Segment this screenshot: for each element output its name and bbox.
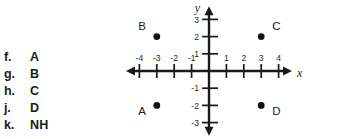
y-tick-label: 3 (194, 15, 199, 25)
x-axis-arrow-right-icon (283, 67, 292, 76)
choice-key: k. (4, 118, 30, 132)
answer-choice-list: f. A g. B h. C j. D k. NH (4, 50, 96, 135)
x-tick-label: 2 (241, 53, 246, 63)
point-label-c: C (272, 20, 280, 32)
coordinate-plane: -4-3-2-11234321-1-2-3 BCAD xy (96, 0, 337, 139)
y-tick-label: 2 (194, 32, 199, 42)
y-tick-label: 1 (194, 49, 199, 59)
axes-group (126, 6, 292, 136)
point-label-a: A (138, 105, 146, 117)
y-tick-label: -1 (191, 83, 199, 93)
x-tick-label: 4 (276, 53, 281, 63)
choice-key: h. (4, 84, 30, 98)
plotted-point-b[interactable] (153, 33, 160, 40)
list-item[interactable]: h. C (4, 84, 96, 101)
choice-label: A (30, 50, 39, 64)
x-tick-label: -4 (136, 53, 144, 63)
choice-label: B (30, 67, 39, 81)
plotted-point-a[interactable] (153, 102, 160, 109)
list-item[interactable]: j. D (4, 101, 96, 118)
choice-label: C (30, 84, 39, 98)
choice-key: f. (4, 50, 30, 64)
list-item[interactable]: k. NH (4, 118, 96, 135)
point-label-b: B (138, 20, 146, 32)
y-axis-label: y (194, 1, 201, 15)
list-item[interactable]: g. B (4, 67, 96, 84)
y-axis-arrow-down-icon (205, 127, 214, 136)
choice-label: NH (30, 118, 48, 132)
plotted-point-c[interactable] (258, 33, 265, 40)
x-tick-label: 1 (224, 53, 229, 63)
x-axis-arrow-left-icon (126, 67, 135, 76)
choice-key: j. (4, 101, 30, 115)
x-tick-label: -3 (153, 53, 161, 63)
choice-key: g. (4, 67, 30, 81)
y-tick-label: -3 (191, 118, 199, 128)
y-axis-arrow-up-icon (205, 6, 214, 15)
worksheet-figure: f. A g. B h. C j. D k. NH -4-3-2-1123432… (0, 0, 337, 139)
x-axis-label: x (296, 66, 303, 80)
x-tick-label: 3 (259, 53, 264, 63)
plotted-point-d[interactable] (258, 102, 265, 109)
y-tick-label: -2 (191, 101, 199, 111)
list-item[interactable]: f. A (4, 50, 96, 67)
x-tick-label: -2 (170, 53, 178, 63)
choice-label: D (30, 101, 39, 115)
point-label-d: D (272, 105, 280, 117)
